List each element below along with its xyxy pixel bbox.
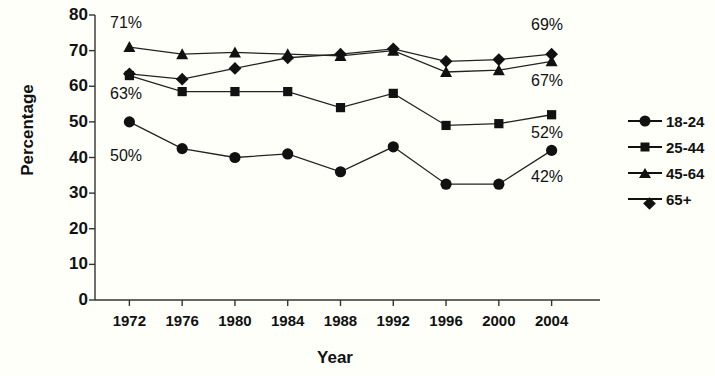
triangle-marker-icon [639, 168, 651, 178]
data-point-marker [178, 87, 187, 96]
legend-label: 18-24 [662, 113, 704, 130]
data-point-marker [176, 73, 189, 86]
square-marker-icon [641, 143, 650, 152]
data-point-marker [547, 110, 556, 119]
data-point-marker [336, 103, 345, 112]
data-point-marker [440, 179, 451, 190]
chart-legend: 18-2425-4445-6465+ [628, 108, 704, 212]
legend-key [628, 137, 662, 157]
data-point-marker [493, 179, 504, 190]
legend-item-25-44[interactable]: 25-44 [628, 134, 704, 160]
series-line [129, 76, 551, 126]
data-point-marker [388, 141, 399, 152]
data-point-marker [124, 116, 135, 127]
data-point-marker [229, 152, 240, 163]
legend-label: 25-44 [662, 139, 704, 156]
legend-label: 45-64 [662, 165, 704, 182]
legend-key [628, 189, 662, 209]
data-point-marker [123, 41, 135, 52]
legend-key [628, 163, 662, 183]
data-point-marker [546, 145, 557, 156]
legend-key [628, 111, 662, 131]
data-point-marker [545, 48, 558, 61]
data-point-marker [230, 87, 239, 96]
series-18-24 [124, 116, 557, 190]
data-point-marker [492, 53, 505, 66]
legend-item-18-24[interactable]: 18-24 [628, 108, 704, 134]
data-point-marker [283, 87, 292, 96]
data-point-marker [389, 89, 398, 98]
data-point-marker [229, 62, 242, 75]
data-point-marker [177, 143, 188, 154]
series-25-44 [125, 71, 556, 130]
legend-label: 65+ [662, 191, 691, 208]
plot-area [0, 0, 715, 376]
series-65+ [123, 42, 558, 85]
data-point-marker [281, 51, 294, 64]
data-point-marker [440, 55, 453, 68]
legend-item-45-64[interactable]: 45-64 [628, 160, 704, 186]
legend-item-65+[interactable]: 65+ [628, 186, 704, 212]
data-point-marker [335, 166, 346, 177]
line-chart: Percentage Year 01020304050607080 197219… [0, 0, 715, 376]
circle-marker-icon [640, 116, 651, 127]
data-point-marker [441, 121, 450, 130]
data-point-marker [282, 148, 293, 159]
data-point-marker [494, 119, 503, 128]
